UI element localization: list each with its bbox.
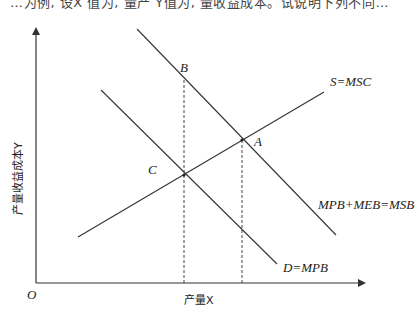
- msb-label: MPB+MEB=MSB: [317, 197, 414, 212]
- msb-curve: [137, 29, 336, 235]
- msc-label: S=MSC: [330, 74, 372, 89]
- point-c-label: C: [148, 162, 157, 177]
- point-c-marker: [182, 173, 185, 176]
- mpb-demand-curve: [101, 90, 277, 264]
- y-axis-label: 产量收益成本Y: [11, 142, 25, 215]
- origin-label: O: [27, 287, 37, 302]
- msc-supply-curve: [78, 92, 324, 237]
- point-a-marker: [240, 138, 243, 141]
- externality-diagram: B A C S=MSC MPB+MEB=MSB D=MPB O 产量X 产量收益…: [0, 0, 419, 318]
- point-a-label: A: [253, 134, 262, 149]
- mpb-label: D=MPB: [282, 260, 328, 275]
- x-axis-label: 产量X: [184, 293, 214, 307]
- point-b-label: B: [180, 60, 188, 75]
